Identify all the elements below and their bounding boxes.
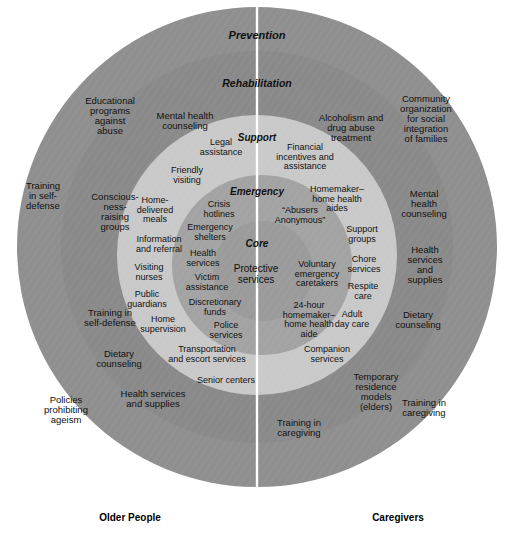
service-label-financial-incentives-and-assistance: Financial incentives and assistance <box>276 143 334 172</box>
service-label-legal-assistance: Legal assistance <box>200 138 243 157</box>
service-label-training-in-caregiving: Training in caregiving <box>277 418 321 438</box>
service-label-public-guardians: Public guardians <box>127 290 167 309</box>
service-label-companion-services: Companion services <box>304 345 350 364</box>
service-label-temporary-residence-models-elders: Temporary residence models (elders) <box>354 372 399 412</box>
ring-heading-rehabilitation: Rehabilitation <box>222 77 291 89</box>
service-label-conscious-ness-raising-groups: Conscious- ness- raising groups <box>91 192 139 232</box>
service-label-24-hour-homemaker-home-health-aide: 24-hour homemaker– home health aide <box>283 301 336 339</box>
service-label-adult-day-care: Adult day care <box>335 310 370 329</box>
population-label-older-people: Older People <box>99 512 161 523</box>
service-label-policies-prohibiting-ageism: Policies prohibiting ageism <box>44 395 88 425</box>
service-label-abusers-anonymous: “Abusers Anonymous” <box>275 206 326 225</box>
service-label-transportation-and-escort-services: Transportation and escort services <box>168 345 246 364</box>
service-label-alcoholism-and-drug-abuse-treatment: Alcoholism and drug abuse treatment <box>319 113 383 143</box>
service-label-support-groups: Support groups <box>346 225 378 244</box>
ring-heading-core: Core <box>246 238 269 249</box>
service-label-training-in-self-defense: Training in self-defense <box>84 308 136 328</box>
service-label-crisis-hotlines: Crisis hotlines <box>203 200 234 219</box>
service-label-information-and-referral: Information and referral <box>136 235 182 254</box>
service-label-senior-centers: Senior centers <box>197 376 255 386</box>
service-label-educational-programs-against-abuse: Educational programs against abuse <box>85 96 135 136</box>
service-label-protective-services: Protective services <box>234 264 278 285</box>
ring-heading-support: Support <box>238 132 276 143</box>
service-label-mental-health-counseling: Mental health counseling <box>156 111 213 131</box>
service-label-training-in-caregiving: Training in caregiving <box>402 398 446 418</box>
service-label-mental-health-counseling: Mental health counseling <box>401 189 446 219</box>
service-label-victim-assistance: Victim assistance <box>186 273 229 292</box>
service-label-chore-services: Chore services <box>347 255 380 274</box>
service-label-health-services-and-supplies: Health services and supplies <box>121 389 186 409</box>
service-label-visiting-nurses: Visiting nurses <box>135 263 164 282</box>
service-label-voluntary-emergency-caretakers: Voluntary emergency caretakers <box>295 260 340 289</box>
service-label-police-services: Police services <box>209 321 242 340</box>
service-label-friendly-visiting: Friendly visiting <box>171 166 203 185</box>
service-label-home-delivered-meals: Home- delivered meals <box>137 196 174 225</box>
service-label-community-organization-for-social-integratio: Community organization for social integr… <box>400 94 452 144</box>
service-label-respite-care: Respite care <box>348 282 379 301</box>
service-label-home-supervision: Home supervision <box>140 315 186 334</box>
ring-heading-emergency: Emergency <box>230 186 284 197</box>
service-label-discretionary-funds: Discretionary funds <box>189 298 242 317</box>
service-label-dietary-counseling: Dietary counseling <box>395 310 440 330</box>
service-label-health-services-and-supplies: Health services and supplies <box>408 245 443 285</box>
population-label-caregivers: Caregivers <box>372 512 424 523</box>
ring-heading-prevention: Prevention <box>229 29 286 41</box>
service-label-health-services: Health services <box>186 249 219 268</box>
service-label-dietary-counseling: Dietary counseling <box>96 349 141 369</box>
service-label-emergency-shelters: Emergency shelters <box>187 223 233 242</box>
service-label-training-in-self-defense: Training in self- defense <box>26 181 60 211</box>
